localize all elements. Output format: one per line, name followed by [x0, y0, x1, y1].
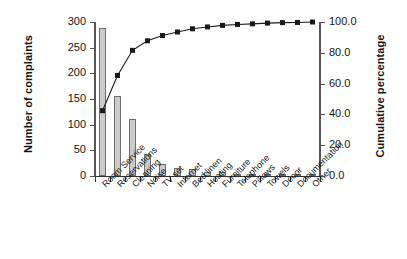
- cumulative-marker: Pillows: 98.8%: [250, 21, 255, 26]
- y-axis-right-tickmark: [319, 84, 325, 85]
- cumulative-marker: Documentation: 99.7%: [295, 20, 300, 25]
- cumulative-marker: Heating: 96.8%: [205, 24, 210, 29]
- cumulative-marker: Room Service: 42.4%: [100, 108, 105, 113]
- cumulative-marker: Cleaning: 81.6%: [130, 48, 135, 53]
- cumulative-marker: Telephone: 98.4%: [235, 22, 240, 27]
- cumulative-marker: Internet: 93.5%: [175, 30, 180, 35]
- y-axis-left-tick-label: 250: [44, 42, 86, 53]
- y-axis-right-tickmark: [319, 22, 325, 23]
- y-axis-left-tickmark: [90, 22, 95, 23]
- cumulative-line: [103, 22, 313, 111]
- y-axis-right-tick-label: 100.0: [329, 16, 357, 27]
- y-axis-left-tickmark: [90, 150, 95, 151]
- y-axis-right-tick-label: 60.0: [329, 78, 350, 89]
- cumulative-marker: TV set: 91.2%: [160, 33, 165, 38]
- cumulative-marker: Furniture: 97.8%: [220, 23, 225, 28]
- cumulative-marker: Décor: 99.6%: [280, 20, 285, 25]
- y-axis-right-tick-label: 80.0: [329, 47, 350, 58]
- y-axis-left-tickmark: [90, 73, 95, 74]
- x-axis-category-labels: Room ServiceReservationsCleaningNoiseTV …: [0, 180, 407, 259]
- cumulative-marker: Noise: 87.8%: [145, 38, 150, 43]
- y-axis-left-title: Number of complaints: [22, 19, 34, 169]
- pareto-chart: Number of complaints Cumulative percenta…: [0, 0, 407, 259]
- y-axis-left-tick-label: 200: [44, 67, 86, 78]
- y-axis-left-tickmark: [90, 48, 95, 49]
- y-axis-left-tick-label: 100: [44, 119, 86, 130]
- y-axis-right-tickmark: [319, 114, 325, 115]
- y-axis-right-tick-label: 40.0: [329, 108, 350, 119]
- cumulative-marker: Reservations: 65.3%: [115, 73, 120, 78]
- y-axis-left-tickmark: [90, 125, 95, 126]
- y-axis-left-tick-label: 50: [44, 144, 86, 155]
- y-axis-right-tickmark: [319, 53, 325, 54]
- y-axis-left-tickmark: [90, 99, 95, 100]
- cumulative-marker: Other: 100%: [310, 20, 315, 25]
- y-axis-left-tick-label: 300: [44, 16, 86, 27]
- cumulative-marker: Towels: 99.3%: [265, 21, 270, 26]
- y-axis-left-tick-label: 150: [44, 93, 86, 104]
- cumulative-marker: Bed linen: 95.6%: [190, 26, 195, 31]
- y-axis-left-tickmark: [90, 176, 95, 177]
- y-axis-right-tickmark: [319, 145, 325, 146]
